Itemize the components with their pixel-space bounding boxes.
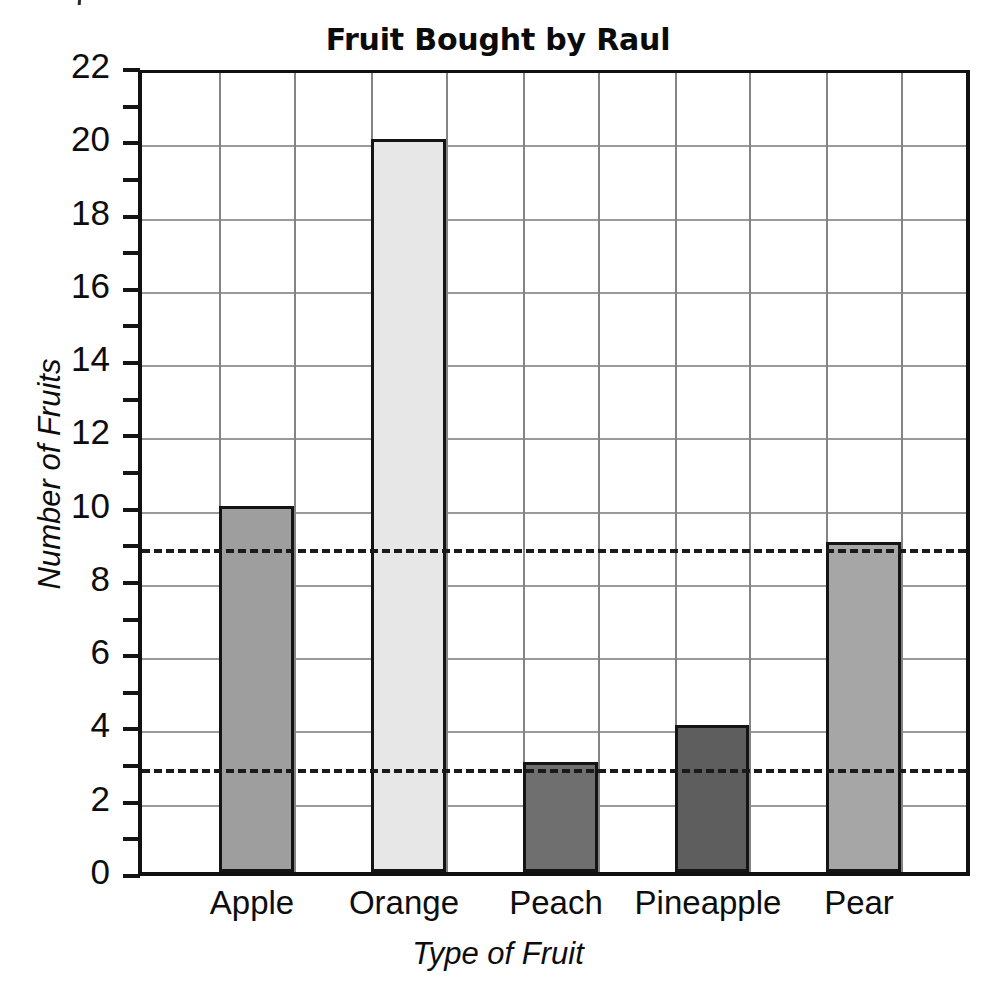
scan-artifact bbox=[78, 0, 82, 5]
y-axis-tick-major bbox=[123, 434, 140, 438]
y-axis-label-22: 22 bbox=[0, 46, 110, 86]
bar-orange bbox=[371, 139, 446, 872]
y-axis-tick-minor bbox=[123, 764, 140, 768]
gridline-horizontal bbox=[142, 365, 966, 367]
y-axis-tick-minor bbox=[123, 837, 140, 841]
y-axis-tick-minor bbox=[123, 251, 140, 255]
y-axis-label-0: 0 bbox=[0, 852, 110, 892]
y-axis-tick-major bbox=[123, 874, 140, 878]
y-axis-tick-minor bbox=[123, 471, 140, 475]
bar-pear bbox=[826, 542, 901, 872]
reference-line-9 bbox=[142, 549, 966, 553]
bar-pineapple bbox=[675, 725, 749, 872]
x-axis-title: Type of Fruit bbox=[0, 936, 996, 972]
y-axis-tick-major bbox=[123, 801, 140, 805]
y-axis-tick-major bbox=[123, 288, 140, 292]
y-axis-tick-minor bbox=[123, 105, 140, 109]
y-axis-label-20: 20 bbox=[0, 119, 110, 159]
y-axis-tick-major bbox=[123, 727, 140, 731]
y-axis-label-8: 8 bbox=[0, 559, 110, 599]
y-axis-tick-minor bbox=[123, 544, 140, 548]
y-axis-label-16: 16 bbox=[0, 266, 110, 306]
y-axis-label-6: 6 bbox=[0, 632, 110, 672]
y-axis-label-14: 14 bbox=[0, 339, 110, 379]
y-axis-tick-major bbox=[123, 654, 140, 658]
reference-line-3 bbox=[142, 769, 966, 773]
y-axis-tick-major bbox=[123, 215, 140, 219]
bar-apple bbox=[219, 506, 294, 872]
bar-chart: Fruit Bought by Raul Number of Fruits Ty… bbox=[0, 0, 996, 997]
y-axis-tick-minor bbox=[123, 691, 140, 695]
gridline-vertical bbox=[901, 73, 903, 872]
gridline-vertical bbox=[294, 73, 296, 872]
y-axis-label-2: 2 bbox=[0, 779, 110, 819]
y-axis-label-12: 12 bbox=[0, 412, 110, 452]
gridline-horizontal bbox=[142, 145, 966, 147]
y-axis-tick-minor bbox=[123, 398, 140, 402]
y-axis-tick-major bbox=[123, 141, 140, 145]
y-axis-tick-minor bbox=[123, 178, 140, 182]
gridline-vertical bbox=[446, 73, 448, 872]
gridline-horizontal bbox=[142, 438, 966, 440]
gridline-vertical bbox=[749, 73, 751, 872]
x-axis-label-pear: Pear bbox=[749, 884, 969, 922]
gridline-horizontal bbox=[142, 219, 966, 221]
y-axis-tick-minor bbox=[123, 618, 140, 622]
plot-area bbox=[138, 70, 970, 876]
y-axis-label-18: 18 bbox=[0, 193, 110, 233]
y-axis-tick-major bbox=[123, 361, 140, 365]
gridline-vertical bbox=[598, 73, 600, 872]
gridline-vertical bbox=[523, 73, 525, 872]
y-axis-label-10: 10 bbox=[0, 486, 110, 526]
y-axis-tick-major bbox=[123, 508, 140, 512]
y-axis-label-4: 4 bbox=[0, 705, 110, 745]
bar-peach bbox=[523, 762, 598, 872]
y-axis-tick-major bbox=[123, 581, 140, 585]
y-axis-tick-minor bbox=[123, 324, 140, 328]
gridline-horizontal bbox=[142, 292, 966, 294]
chart-title: Fruit Bought by Raul bbox=[0, 22, 996, 57]
y-axis-tick-major bbox=[123, 68, 140, 72]
